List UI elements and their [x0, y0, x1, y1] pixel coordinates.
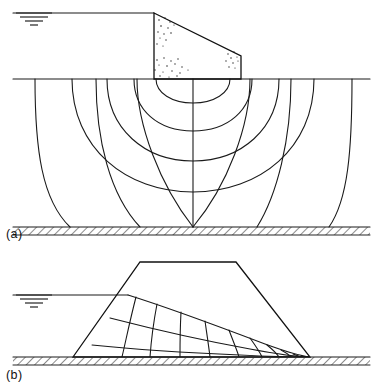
phreatic-line-b: [128, 295, 310, 357]
impermeable-base-b: [13, 357, 370, 365]
water-table-symbol-a: [16, 13, 52, 25]
panel-label-b: (b): [6, 368, 22, 382]
flow-line-a-3: [137, 79, 193, 227]
panel-b: (b): [6, 262, 370, 382]
earth-dam-body: [73, 262, 310, 357]
figure-canvas: (a): [0, 0, 381, 391]
flow-line-a-2: [96, 79, 140, 227]
flow-lines-b: [92, 295, 310, 357]
flow-line-a-6: [329, 79, 352, 227]
concrete-dam-body: [154, 13, 241, 79]
flow-line-a-5: [257, 79, 291, 227]
flow-line-a-4: [193, 79, 250, 227]
water-table-symbol-b: [16, 295, 52, 307]
panel-a: (a): [6, 13, 370, 241]
equipotential-b-4: [205, 321, 210, 357]
equipotential-b-2: [150, 304, 157, 357]
equipotential-lines-b: [122, 297, 300, 357]
panel-label-a: (a): [6, 227, 22, 241]
impermeable-base-a: [13, 227, 370, 235]
concrete-stipple-lower: [154, 57, 188, 77]
flow-net-figure: (a): [0, 0, 381, 391]
flow-line-a-1: [35, 79, 70, 227]
